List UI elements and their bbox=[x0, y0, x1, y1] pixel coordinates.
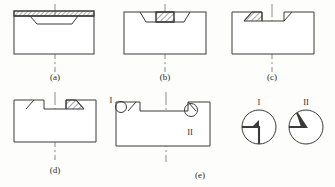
blank-body-a bbox=[14, 16, 94, 54]
callout-label-I: I bbox=[110, 95, 113, 105]
panel-b bbox=[124, 4, 206, 72]
hatched-block-b bbox=[156, 12, 174, 22]
figure-canvas: (a) (b) (c) (d) (e) I II I II bbox=[0, 0, 335, 187]
panel-label-c: (c) bbox=[267, 72, 277, 82]
blank-body-d bbox=[14, 100, 96, 142]
panel-c bbox=[232, 4, 314, 72]
detail-view-I bbox=[242, 110, 276, 144]
panel-label-d: (d) bbox=[50, 165, 61, 175]
panel-d bbox=[14, 92, 96, 160]
blank-body-c bbox=[232, 12, 314, 54]
panel-label-e: (e) bbox=[195, 170, 205, 180]
panel-a bbox=[14, 4, 94, 72]
panel-label-b: (b) bbox=[160, 72, 171, 82]
panel-label-a: (a) bbox=[50, 72, 60, 82]
detail-label-I: I bbox=[258, 97, 261, 107]
hatched-top-layer-a bbox=[14, 11, 94, 16]
detail-label-II: II bbox=[303, 97, 309, 107]
process-diagram: (a) (b) (c) (d) (e) I II I II bbox=[0, 0, 335, 187]
detail-view-II bbox=[289, 110, 323, 144]
panel-e bbox=[116, 92, 211, 162]
callout-label-II: II bbox=[187, 127, 193, 137]
